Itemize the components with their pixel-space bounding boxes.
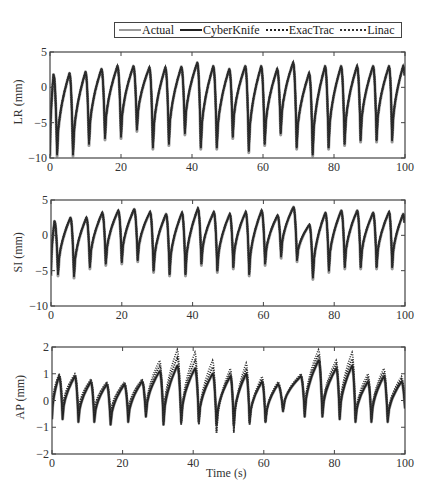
legend-label-exactrac: ExacTrac xyxy=(289,23,335,38)
panel-lr: 02040608010050−5−10 xyxy=(28,45,414,174)
x-tick-label: 60 xyxy=(257,308,269,322)
y-tick-label: −10 xyxy=(29,299,48,313)
legend-swatch-exactrac xyxy=(266,29,288,31)
x-tick-label: 0 xyxy=(48,308,54,322)
x-tick-label: 40 xyxy=(187,308,199,322)
x-tick-label: 100 xyxy=(396,160,414,174)
x-tick-label: 80 xyxy=(328,160,340,174)
x-tick-label: 100 xyxy=(396,308,414,322)
ylabel-si: SI (mm) xyxy=(11,233,26,273)
x-tick-label: 100 xyxy=(396,456,414,470)
x-tick-label: 40 xyxy=(187,456,199,470)
y-tick-label: 0 xyxy=(42,228,48,242)
y-tick-label: −5 xyxy=(35,264,48,278)
panel-ap: 020406080100210−1−2 xyxy=(36,340,414,470)
ylabel-lr: LR (mm) xyxy=(11,85,26,125)
plot-area xyxy=(51,207,405,279)
y-tick-label: −2 xyxy=(36,447,49,461)
y-tick-label: 0 xyxy=(43,394,49,408)
y-tick-label: 1 xyxy=(43,367,49,381)
x-tick-label: 0 xyxy=(49,456,55,470)
legend-item-exactrac: ExacTrac xyxy=(266,23,335,38)
plot-area xyxy=(50,63,405,157)
x-tick-label: 20 xyxy=(115,160,127,174)
x-tick-label: 80 xyxy=(328,308,340,322)
x-tick-label: 60 xyxy=(258,456,270,470)
legend-label-linac: Linac xyxy=(367,23,394,38)
y-tick-label: −10 xyxy=(28,151,47,165)
figure-canvas: 02040608010050−5−1002040608010050−5−1002… xyxy=(0,0,430,499)
plot-area xyxy=(52,350,405,433)
panel-si: 02040608010050−5−10 xyxy=(29,193,414,322)
x-tick-label: 20 xyxy=(116,308,128,322)
legend-item-linac: Linac xyxy=(340,23,394,38)
legend-label-cyberknife: CyberKnife xyxy=(203,23,260,38)
y-tick-label: 0 xyxy=(41,80,47,94)
legend-item-actual: Actual xyxy=(119,23,174,38)
x-tick-label: 80 xyxy=(328,456,340,470)
x-tick-label: 40 xyxy=(186,160,198,174)
legend-item-cyberknife: CyberKnife xyxy=(180,23,260,38)
ylabel-ap: AP (mm) xyxy=(13,380,28,420)
legend-label-actual: Actual xyxy=(142,23,174,38)
y-tick-label: −5 xyxy=(34,116,47,130)
y-tick-label: 2 xyxy=(43,340,49,354)
xlabel-time: Time (s) xyxy=(206,466,247,481)
x-tick-label: 20 xyxy=(117,456,129,470)
y-tick-label: 5 xyxy=(41,45,47,59)
series-cyberknife xyxy=(52,360,405,424)
x-tick-label: 0 xyxy=(47,160,53,174)
y-tick-label: 5 xyxy=(42,193,48,207)
legend: Actual CyberKnife ExacTrac Linac xyxy=(114,22,402,38)
legend-swatch-cyberknife xyxy=(180,29,202,31)
legend-swatch-actual xyxy=(119,29,141,31)
legend-swatch-linac xyxy=(340,29,366,31)
x-tick-label: 60 xyxy=(257,160,269,174)
y-tick-label: −1 xyxy=(36,420,49,434)
